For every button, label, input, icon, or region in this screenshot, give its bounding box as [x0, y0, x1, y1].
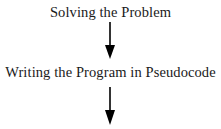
down-arrow-icon	[104, 87, 116, 125]
step-solving-the-problem: Solving the Problem	[0, 4, 221, 20]
down-arrow-icon	[104, 22, 116, 59]
step-writing-program-in-pseudocode: Writing the Program in Pseudocode	[0, 64, 221, 80]
